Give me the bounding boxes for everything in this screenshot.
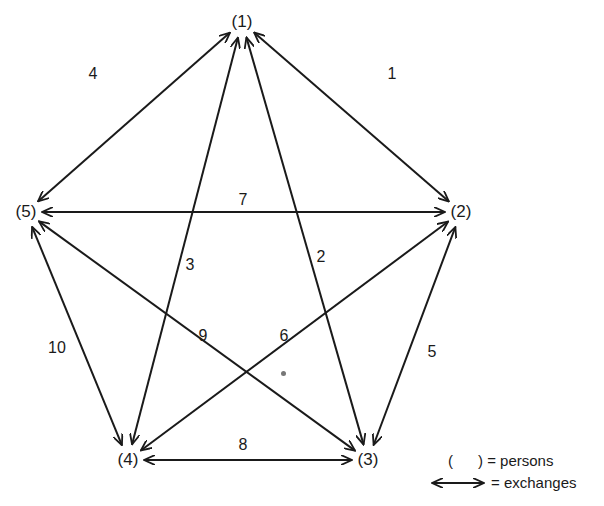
edge-label-9: 9: [199, 327, 208, 345]
person-node-3: (3): [358, 450, 379, 470]
edge-label-6: 6: [280, 327, 289, 345]
person-node-2: (2): [451, 202, 472, 222]
edge-label-4: 4: [89, 65, 98, 83]
person-node-5: (5): [16, 202, 37, 222]
edge-label-5: 5: [428, 343, 437, 361]
edge-label-1: 1: [388, 65, 397, 83]
edge-label-7: 7: [239, 191, 248, 209]
legend-persons-symbol: ( ): [448, 452, 483, 469]
stray-mark: [281, 371, 286, 376]
edge-label-3: 3: [186, 256, 195, 274]
person-node-4: (4): [118, 450, 139, 470]
legend-exchanges-label: = exchanges: [491, 474, 576, 491]
exchange-edge-5: [374, 227, 456, 445]
edge-label-2: 2: [317, 248, 326, 266]
exchange-edge-1: [254, 32, 449, 201]
legend-persons: ( ) = persons: [448, 452, 553, 469]
edge-label-10: 10: [48, 339, 66, 357]
person-node-1: (1): [232, 12, 253, 32]
exchange-edge-9: [39, 221, 355, 450]
exchange-edge-3: [132, 37, 238, 444]
edge-label-8: 8: [239, 436, 248, 454]
exchange-edge-10: [32, 227, 122, 445]
legend-persons-label: = persons: [487, 452, 553, 469]
legend-exchanges: = exchanges: [491, 474, 595, 491]
